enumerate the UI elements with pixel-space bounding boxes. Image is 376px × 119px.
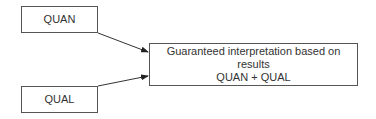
quan-node: QUAN bbox=[21, 6, 98, 33]
qual-label: QUAL bbox=[45, 93, 75, 106]
interpretation-node: Guaranteed interpretation based on resul… bbox=[149, 43, 358, 86]
arrow-qual-to-result bbox=[98, 76, 148, 86]
interpretation-line1: Guaranteed interpretation based on resul… bbox=[150, 45, 357, 71]
interpretation-line2: QUAN + QUAL bbox=[216, 71, 290, 84]
quan-label: QUAN bbox=[44, 13, 76, 26]
arrow-quan-to-result bbox=[98, 33, 148, 52]
qual-node: QUAL bbox=[21, 86, 98, 113]
